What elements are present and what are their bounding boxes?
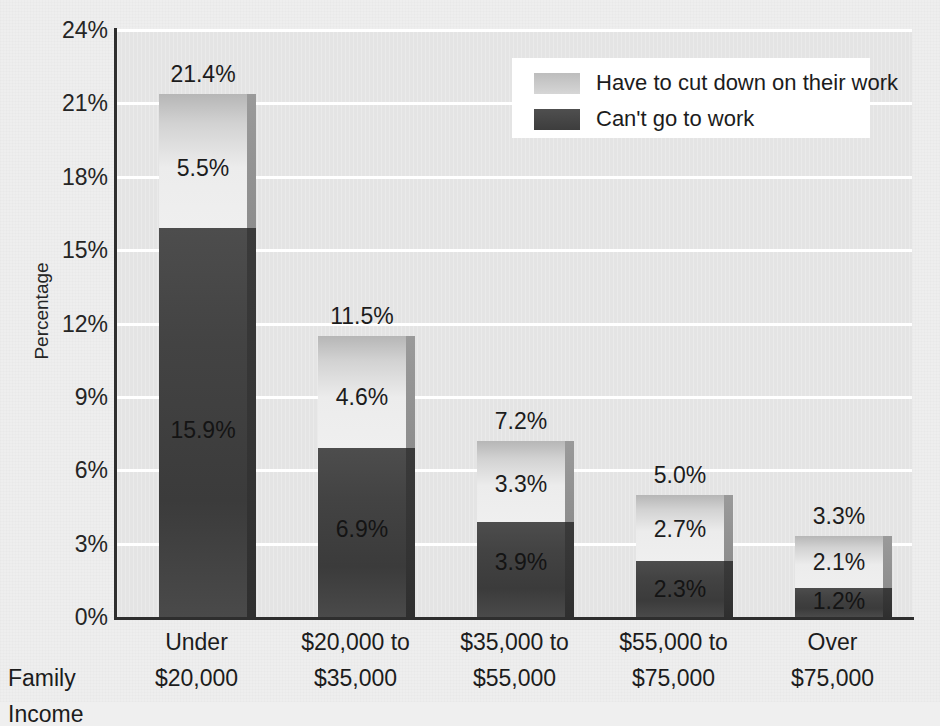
x-tick-label-line: Over — [753, 624, 912, 660]
x-axis-labels: Under$20,000$20,000 to$35,000$35,000 to$… — [117, 624, 912, 702]
x-tick-label: $55,000 to$75,000 — [594, 624, 753, 696]
bar-value-label: 3.3% — [477, 473, 565, 496]
y-axis-ticks: 0%3%6%9%12%15%18%21%24% — [12, 0, 108, 702]
bar-total-label: 5.0% — [636, 464, 724, 487]
y-axis-line — [114, 28, 117, 620]
bar-value-label: 4.6% — [318, 386, 406, 409]
bar-total-label: 11.5% — [318, 305, 406, 328]
x-tick-label-line: Under — [117, 624, 276, 660]
bar-edge-shadow — [724, 561, 733, 617]
y-axis-title: Percentage — [31, 231, 53, 391]
bar-edge-shadow — [247, 228, 256, 617]
bar-value-label: 15.9% — [159, 419, 247, 442]
bar-value-label: 1.2% — [795, 590, 883, 613]
bar-total-label: 7.2% — [477, 410, 565, 433]
x-tick-label-line: $55,000 — [435, 660, 594, 696]
bar-edge-shadow — [406, 448, 415, 617]
bar-value-label: 2.1% — [795, 551, 883, 574]
bar-value-label: 6.9% — [318, 518, 406, 541]
legend-swatch-light — [534, 73, 580, 94]
bar-edge-shadow — [406, 336, 415, 449]
x-tick-label-line: $35,000 to — [435, 624, 594, 660]
bar-edge-shadow — [565, 522, 574, 617]
x-tick-label: $35,000 to$55,000 — [435, 624, 594, 696]
x-tick-label-line: $75,000 — [594, 660, 753, 696]
x-tick-label-line: $55,000 to — [594, 624, 753, 660]
bar-stack: 15.9%5.5%21.4% — [159, 94, 247, 617]
y-tick-label: 0% — [22, 606, 108, 629]
x-tick-label: Over$75,000 — [753, 624, 912, 696]
bar-stack: 2.3%2.7%5.0% — [636, 495, 724, 617]
bar-stack: 6.9%4.6%11.5% — [318, 336, 406, 617]
bar-total-label: 3.3% — [795, 505, 883, 528]
gridline — [117, 29, 912, 32]
bar-value-label: 5.5% — [159, 157, 247, 180]
legend: Have to cut down on their workCan't go t… — [512, 58, 870, 138]
bar-edge-shadow — [724, 495, 733, 561]
bar-stack: 1.2%2.1%3.3% — [795, 536, 883, 617]
x-tick-label-line: $75,000 — [753, 660, 912, 696]
legend-swatch-dark — [534, 109, 580, 130]
bar-total-label: 21.4% — [159, 63, 247, 86]
bar-edge-shadow — [247, 94, 256, 229]
x-tick-label-line: $20,000 to — [276, 624, 435, 660]
bar-value-label: 3.9% — [477, 551, 565, 574]
bar-edge-shadow — [883, 536, 892, 587]
x-tick-label-line: $35,000 — [276, 660, 435, 696]
bar-edge-shadow — [883, 588, 892, 617]
bar-edge-shadow — [565, 441, 574, 522]
bar-value-label: 2.3% — [636, 578, 724, 601]
x-axis-line — [114, 617, 914, 620]
x-axis-title: Family Income — [8, 660, 148, 726]
y-tick-label: 24% — [22, 19, 108, 42]
y-tick-label: 6% — [22, 459, 108, 482]
x-tick-label: $20,000 to$35,000 — [276, 624, 435, 696]
bar-value-label: 2.7% — [636, 518, 724, 541]
bar-stack: 3.9%3.3%7.2% — [477, 441, 565, 617]
legend-label: Can't go to work — [596, 106, 754, 132]
y-tick-label: 18% — [22, 166, 108, 189]
y-tick-label: 21% — [22, 92, 108, 115]
y-tick-label: 3% — [22, 533, 108, 556]
legend-label: Have to cut down on their work — [596, 70, 898, 96]
